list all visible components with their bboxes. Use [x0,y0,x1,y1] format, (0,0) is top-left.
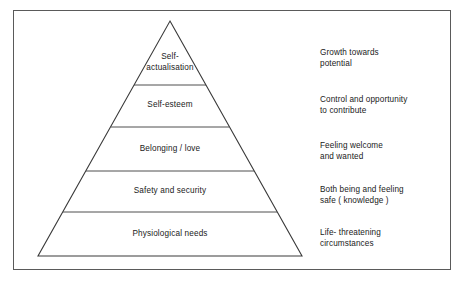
tier-label-belonging-love: Belonging / love [120,144,220,155]
annotation-growth-towards-potential: Growth towards potential [320,48,445,69]
tier-label-safety-and-security: Safety and security [110,186,230,197]
annotation-control-and-opportunity: Control and opportunity to contribute [320,95,448,116]
annotation-column: Growth towards potential Control and opp… [320,10,445,270]
annotation-feeling-welcome: Feeling welcome and wanted [320,141,445,162]
annotation-life-threatening-circumstances: Life- threatening circumstances [320,228,445,249]
figure-container: Self- actualisation Self-esteem Belongin… [0,0,463,285]
tier-label-self-esteem: Self-esteem [130,100,210,111]
tier-label-self-actualisation: Self- actualisation [130,52,210,73]
annotation-both-being-and-feeling-safe: Both being and feeling safe ( knowledge … [320,185,450,206]
tier-label-physiological-needs: Physiological needs [110,229,230,240]
